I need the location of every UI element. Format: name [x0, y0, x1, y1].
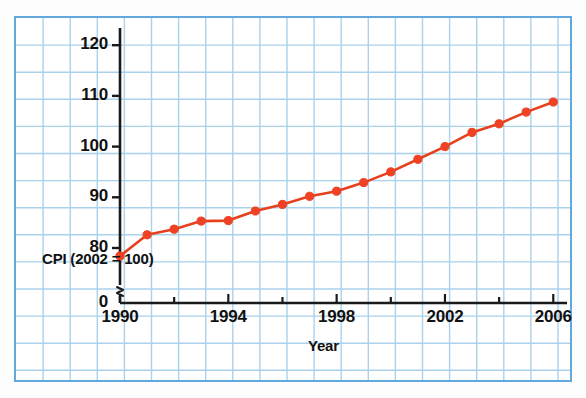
x-tick-label-1998: 1998 [307, 307, 367, 327]
data-point-1996 [278, 200, 286, 208]
x-tick-label-1990: 1990 [90, 307, 150, 327]
x-tick-label-2006: 2006 [523, 307, 583, 327]
data-point-1993 [197, 217, 205, 225]
x-tick-label-1994: 1994 [198, 307, 258, 327]
chart-figure: CPI (2002 = 100) Year 080901001101201990… [0, 0, 586, 398]
y-tick-label-110: 110 [46, 85, 108, 105]
x-tick-label-2002: 2002 [415, 307, 475, 327]
y-tick-label-90: 90 [46, 186, 108, 206]
data-point-1991 [143, 231, 151, 239]
data-point-2002 [441, 143, 449, 151]
data-point-2000 [387, 168, 395, 176]
data-point-1995 [251, 207, 259, 215]
data-point-2001 [414, 155, 422, 163]
data-point-2003 [468, 128, 476, 136]
data-point-1994 [224, 217, 232, 225]
data-point-1997 [306, 192, 314, 200]
data-point-2006 [549, 98, 557, 106]
x-axis-title: Year [308, 337, 339, 354]
data-point-2004 [495, 120, 503, 128]
data-point-1999 [360, 179, 368, 187]
y-tick-label-120: 120 [46, 34, 108, 54]
y-tick-label-100: 100 [46, 136, 108, 156]
cpi-line-series [120, 102, 553, 256]
data-point-1998 [333, 187, 341, 195]
data-point-2005 [522, 108, 530, 116]
y-tick-label-80: 80 [46, 237, 108, 257]
data-point-1992 [170, 225, 178, 233]
